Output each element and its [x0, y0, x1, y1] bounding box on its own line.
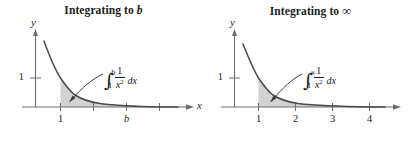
x-ticklabel-2-right: 2: [287, 113, 304, 124]
integral-lower-limit-right: 1: [307, 83, 311, 90]
integral-lower-limit-left: 1: [108, 83, 112, 90]
differential-right: dx: [327, 75, 336, 86]
integral-label-right: ∫∞11x2dx: [303, 66, 336, 90]
y-ticklabel-1-right: 1: [207, 71, 223, 82]
differential-left: dx: [128, 75, 137, 86]
integrand-denominator-left: x2: [115, 79, 125, 91]
panel-integrating-to-infinity: Integrating to ∞ ∫∞11x2dx: [207, 0, 414, 143]
denominator-exponent-right: 2: [319, 78, 322, 85]
x-ticklabel-3-right: 3: [324, 113, 341, 124]
integrand-fraction-left: 1x2: [115, 66, 125, 90]
x-ticklabel-1-right: 1: [250, 113, 267, 124]
integrand-denominator-right: x2: [314, 79, 324, 91]
integral-label-left: ∫b11x2dx: [104, 66, 137, 90]
integral-sign-right: ∫∞1: [303, 71, 313, 90]
x-axis-arrowhead-left: [186, 104, 194, 110]
x-ticklabel-1-left: 1: [52, 113, 69, 124]
figure-container: Integrating to b ∫b11x2dx: [0, 0, 414, 143]
x-axis-label-left: x: [197, 99, 202, 111]
x-axis-arrowhead-right: [393, 104, 401, 110]
y-axis-label-right: y: [230, 16, 235, 28]
panel-integrating-to-b: Integrating to b ∫b11x2dx: [0, 0, 207, 143]
y-ticklabel-1-left: 1: [8, 71, 24, 82]
denominator-exponent-left: 2: [120, 78, 123, 85]
integral-upper-limit-right: ∞: [310, 70, 316, 77]
annotation-arrow-right: [273, 74, 302, 99]
integral-sign-left: ∫b1: [104, 71, 114, 90]
integral-upper-limit-left: b: [111, 70, 115, 77]
y-axis-arrowhead-right: [232, 29, 237, 36]
integrand-numerator-left: 1: [115, 66, 125, 77]
y-axis-label-left: y: [31, 16, 36, 28]
x-ticklabel-4-right: 4: [361, 113, 378, 124]
y-axis-arrowhead-left: [33, 29, 38, 36]
x-ticklabel-b-left: b: [118, 113, 135, 124]
